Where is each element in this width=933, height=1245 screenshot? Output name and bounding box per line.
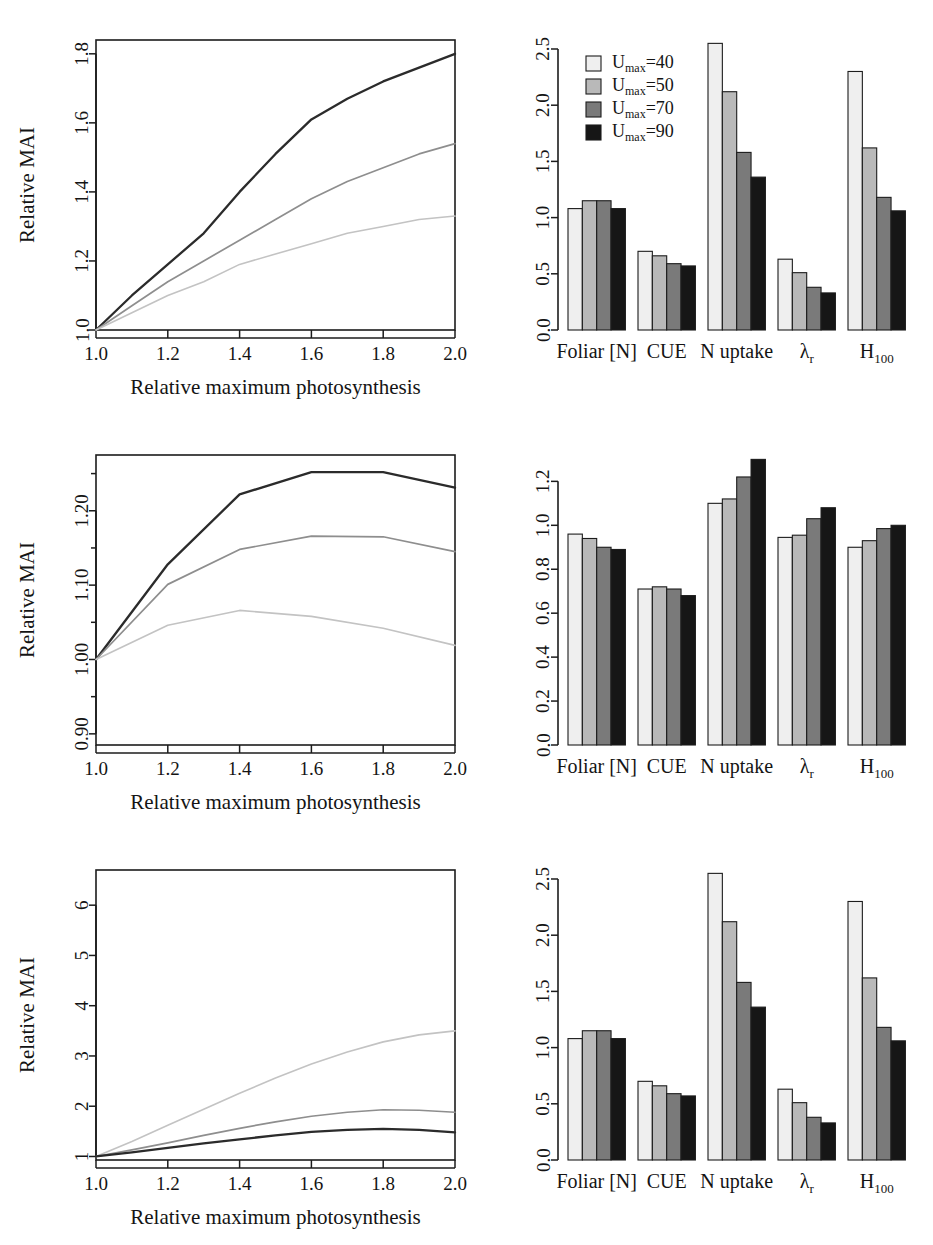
bar — [737, 152, 751, 330]
y-tick-label: 0.8 — [533, 557, 554, 581]
y-tick-label: 1.8 — [72, 42, 93, 66]
x-tick-label: 1.2 — [156, 758, 180, 779]
x-tick-label: 1.6 — [300, 758, 324, 779]
legend-label: Umax=90 — [612, 121, 674, 144]
bar — [667, 1094, 681, 1160]
bar — [722, 922, 736, 1160]
bar — [597, 1031, 611, 1160]
legend-label: Umax=40 — [612, 52, 674, 75]
bar — [891, 211, 905, 330]
y-axis-title: Relative MAI — [15, 957, 39, 1073]
bar — [611, 1039, 625, 1160]
line-series-light — [96, 216, 455, 330]
plot-frame — [96, 870, 455, 1160]
bar — [667, 264, 681, 330]
bar — [582, 201, 596, 330]
y-tick-label: 2.5 — [533, 37, 554, 61]
panel-middle-right: 0.00.20.40.60.81.01.2Foliar [N]CUEN upta… — [468, 415, 933, 830]
line-series-light — [96, 1031, 455, 1157]
y-tick-label: 2.0 — [533, 93, 554, 117]
bar — [708, 503, 722, 745]
bar — [848, 71, 862, 330]
bar — [877, 197, 891, 330]
bar — [597, 547, 611, 745]
y-tick-label: 1.4 — [72, 180, 93, 204]
x-tick-label: 1.8 — [371, 343, 395, 364]
bar-chart-panel-2: 0.00.51.01.52.02.5Foliar [N]CUEN uptakeλ… — [468, 0, 933, 415]
y-tick-label: 0.4 — [533, 645, 554, 669]
y-tick-label: 1.00 — [72, 643, 93, 676]
x-tick-label: 1.0 — [84, 1173, 108, 1194]
y-tick-label: 1.0 — [72, 318, 93, 342]
bar — [681, 266, 695, 330]
y-tick-label: 0.90 — [72, 717, 93, 750]
bar — [722, 92, 736, 330]
x-tick-label: 2.0 — [443, 343, 467, 364]
bar — [597, 201, 611, 330]
y-tick-label: 3 — [72, 1051, 93, 1061]
bar — [652, 1086, 666, 1160]
bar — [862, 541, 876, 745]
y-tick-label: 4 — [72, 1000, 93, 1010]
bar — [708, 43, 722, 330]
bar — [638, 1081, 652, 1160]
legend-swatch — [586, 102, 601, 117]
x-tick-label: 1.6 — [300, 343, 324, 364]
bar — [862, 978, 876, 1160]
y-tick-label: 5 — [72, 951, 93, 961]
line-series-light — [96, 610, 455, 659]
y-axis-title: Relative MAI — [15, 127, 39, 243]
bar — [652, 587, 666, 745]
line-series-mid — [96, 536, 455, 659]
y-tick-label: 1.2 — [72, 249, 93, 273]
bar — [807, 519, 821, 745]
bar — [568, 209, 582, 330]
bar-chart-panel-4: 0.00.20.40.60.81.01.2Foliar [N]CUEN upta… — [468, 415, 933, 830]
bar — [638, 589, 652, 745]
category-label: CUE — [647, 340, 687, 362]
bar-chart-panel-6: 0.00.51.01.52.02.5Foliar [N]CUEN uptakeλ… — [468, 830, 933, 1245]
y-axis-title: Relative MAI — [15, 542, 39, 658]
category-label: λr — [800, 340, 815, 366]
y-tick-label: 1 — [72, 1152, 93, 1162]
bar — [807, 287, 821, 330]
bar — [778, 537, 792, 745]
y-tick-label: 0.5 — [533, 262, 554, 286]
y-tick-label: 2 — [72, 1101, 93, 1111]
x-tick-label: 1.8 — [371, 1173, 395, 1194]
line-series-dark — [96, 54, 455, 330]
category-label: H100 — [860, 1170, 894, 1196]
x-tick-label: 1.2 — [156, 343, 180, 364]
bar — [568, 534, 582, 745]
y-tick-label: 1.5 — [533, 980, 554, 1004]
bar — [848, 901, 862, 1160]
bar — [792, 1103, 806, 1160]
y-tick-label: 1.0 — [533, 1036, 554, 1060]
bar — [667, 589, 681, 745]
y-tick-label: 0.0 — [533, 1148, 554, 1172]
plot-frame — [96, 455, 455, 745]
x-tick-label: 1.4 — [228, 758, 252, 779]
bar — [737, 477, 751, 745]
y-tick-label: 1.2 — [533, 469, 554, 493]
y-tick-label: 0.2 — [533, 689, 554, 713]
y-tick-label: 0.5 — [533, 1092, 554, 1116]
bar — [568, 1039, 582, 1160]
x-tick-label: 2.0 — [443, 1173, 467, 1194]
bar — [821, 1123, 835, 1160]
bar — [611, 209, 625, 330]
bar — [681, 596, 695, 745]
y-tick-label: 0.0 — [533, 318, 554, 342]
panel-middle-left: 0.901.001.101.201.01.21.41.61.82.0Relati… — [0, 415, 470, 830]
y-tick-label: 1.5 — [533, 150, 554, 174]
bar — [751, 1007, 765, 1160]
x-tick-label: 1.0 — [84, 343, 108, 364]
bar — [778, 1089, 792, 1160]
bar — [582, 538, 596, 745]
bar — [848, 547, 862, 745]
x-tick-label: 1.2 — [156, 1173, 180, 1194]
bar — [778, 259, 792, 330]
bar — [751, 459, 765, 745]
y-tick-label: 1.20 — [72, 494, 93, 527]
category-label: N uptake — [700, 340, 773, 363]
